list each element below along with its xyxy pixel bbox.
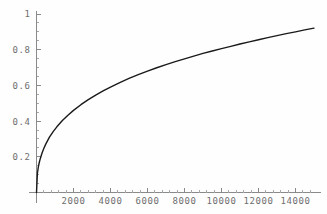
x-tick-label: 12000 bbox=[243, 196, 273, 206]
plot-container: 2000400060008000100001200014000 0.20.40.… bbox=[0, 0, 327, 214]
x-tick-label: 2000 bbox=[61, 196, 85, 206]
y-tick-label: 0.6 bbox=[12, 81, 30, 91]
chart-canvas: 2000400060008000100001200014000 0.20.40.… bbox=[0, 0, 327, 214]
chart-background bbox=[0, 0, 327, 214]
x-tick-labels: 2000400060008000100001200014000 bbox=[61, 196, 310, 206]
y-tick-label: 0.8 bbox=[12, 45, 30, 55]
y-tick-label: 0.4 bbox=[12, 117, 30, 127]
y-tick-label: 1 bbox=[24, 9, 30, 19]
x-tick-label: 14000 bbox=[280, 196, 310, 206]
x-tick-label: 10000 bbox=[206, 196, 236, 206]
x-tick-label: 8000 bbox=[172, 196, 196, 206]
x-tick-label: 4000 bbox=[98, 196, 122, 206]
x-tick-label: 6000 bbox=[135, 196, 159, 206]
y-tick-label: 0.2 bbox=[12, 152, 30, 162]
